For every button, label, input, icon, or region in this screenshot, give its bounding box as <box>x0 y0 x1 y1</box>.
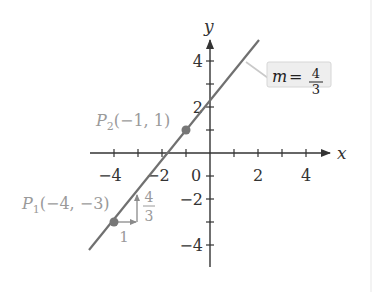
y-tick-label: −2 <box>179 190 203 209</box>
p2-coords: (−1, 1) <box>114 111 170 130</box>
rise-den: 3 <box>145 208 154 224</box>
slope-eq: = <box>289 67 302 86</box>
point-p2 <box>182 126 191 135</box>
x-tick-label: 4 <box>301 166 311 185</box>
y-axis-label: y <box>203 16 214 36</box>
p2-sub: 2 <box>107 120 114 133</box>
point-p1 <box>110 218 119 227</box>
slope-m: m <box>272 67 287 86</box>
x-tick-label: 0 <box>191 166 201 185</box>
p2-letter: P <box>95 111 107 130</box>
y-tick-label: −4 <box>179 236 203 255</box>
run-label: 1 <box>119 228 129 246</box>
callout-leader <box>246 62 268 78</box>
x-tick-label: 2 <box>253 166 263 185</box>
p2-label: P2(−1, 1) <box>95 111 170 133</box>
p1-letter: P <box>21 194 33 213</box>
x-tick-label: −4 <box>98 166 122 185</box>
slope-num: 4 <box>312 66 320 81</box>
slope-chart: x y −4 −2 0 2 4 4 2 −2 −4 m = 4 3 1 4 3 <box>0 0 372 292</box>
x-axis-label: x <box>337 143 347 163</box>
p1-label: P1(−4, −3) <box>21 194 110 216</box>
p1-coords: (−4, −3) <box>40 194 110 213</box>
y-tick-label: 4 <box>193 52 203 71</box>
rise-num: 4 <box>145 189 154 205</box>
slope-den: 3 <box>312 82 320 97</box>
p1-sub: 1 <box>33 203 40 216</box>
